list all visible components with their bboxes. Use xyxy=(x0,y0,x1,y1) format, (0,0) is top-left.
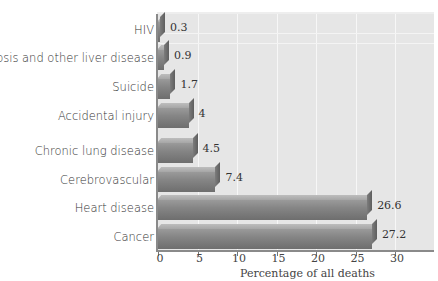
category-label: Chronic lung disease xyxy=(35,144,154,158)
x-tick-label: 25 xyxy=(351,252,365,265)
category-label: Cerebrovascular xyxy=(60,173,154,187)
value-label: 0.9 xyxy=(174,49,192,62)
x-tick-label: 15 xyxy=(272,252,286,265)
x-axis-label: Percentage of all deaths xyxy=(240,267,375,280)
x-tick-label: 30 xyxy=(390,252,404,265)
gridline-vertical xyxy=(395,14,396,250)
value-label: 27.2 xyxy=(382,228,407,241)
x-tick-label: 5 xyxy=(196,252,203,265)
category-label: Cancer xyxy=(114,230,155,244)
value-label: 1.7 xyxy=(180,78,198,91)
bar xyxy=(157,229,372,249)
bar-top-face xyxy=(157,224,376,229)
bar xyxy=(157,108,189,128)
bar xyxy=(157,200,367,220)
x-tick-label: 0 xyxy=(157,252,164,265)
bar xyxy=(157,79,170,99)
y-axis xyxy=(156,14,158,252)
category-label: HIV xyxy=(134,23,154,37)
value-label: 4.5 xyxy=(203,142,221,155)
category-label: Suicide xyxy=(112,80,154,94)
category-label: Accidental injury xyxy=(58,109,154,123)
category-label: Cirrhosis and other liver disease xyxy=(0,51,154,65)
value-label: 0.3 xyxy=(170,21,188,34)
gridline-horizontal xyxy=(157,43,434,44)
bar-top-face xyxy=(157,103,193,108)
gridline-horizontal xyxy=(157,33,434,34)
value-label: 4 xyxy=(199,107,206,120)
bar xyxy=(157,50,164,70)
bar-top-face xyxy=(157,138,197,143)
category-label: Heart disease xyxy=(75,201,154,215)
value-label: 26.6 xyxy=(377,199,402,212)
bar-top-face xyxy=(157,195,371,200)
value-label: 7.4 xyxy=(225,171,243,184)
bar xyxy=(157,143,193,163)
x-tick-label: 20 xyxy=(311,252,325,265)
x-tick-label: 10 xyxy=(232,252,246,265)
bar xyxy=(157,172,215,192)
bar-top-face xyxy=(157,167,220,172)
